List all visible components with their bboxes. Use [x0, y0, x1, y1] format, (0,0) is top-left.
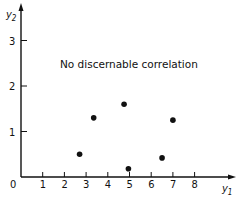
x-tick-label: 3 — [83, 178, 89, 191]
x-tick-label: 5 — [127, 178, 133, 191]
x-axis-label: y1 — [221, 182, 232, 197]
x-axis-arrow-icon — [228, 175, 236, 180]
data-point — [159, 155, 165, 161]
y-tick-label: 1 — [9, 126, 15, 139]
data-point — [121, 101, 127, 107]
x-tick-label: 4 — [105, 178, 111, 191]
y-axis-arrow-icon — [19, 3, 24, 11]
x-tick-label: 8 — [192, 178, 198, 191]
data-point — [91, 115, 97, 121]
x-tick-label: 6 — [148, 178, 154, 191]
data-points — [77, 101, 176, 171]
data-point — [77, 151, 83, 157]
y-axis-label: y2 — [5, 8, 17, 23]
x-tick-label: 1 — [40, 178, 46, 191]
axes — [19, 3, 237, 180]
origin-label: 0 — [10, 178, 16, 191]
x-tick-label: 7 — [170, 178, 176, 191]
annotation-text: No discernable correlation — [60, 58, 198, 70]
y-tick-label: 3 — [9, 35, 15, 48]
scatter-chart: 12345678123 0 No discernable correlation… — [0, 0, 244, 198]
x-tick-label: 2 — [61, 178, 67, 191]
data-point — [126, 166, 132, 172]
data-point — [170, 117, 176, 123]
y-tick-label: 2 — [9, 80, 15, 93]
